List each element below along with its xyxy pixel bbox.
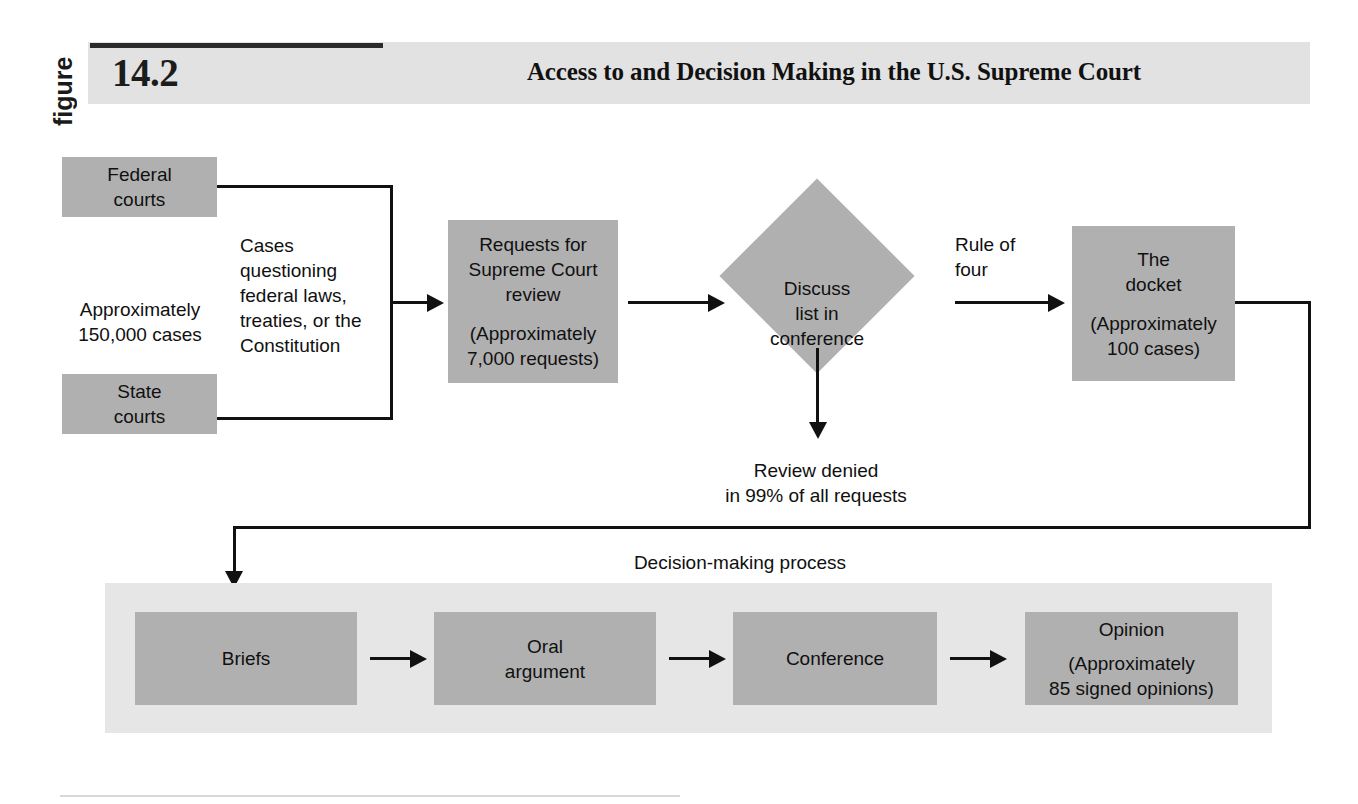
node-state-courts: State courts <box>62 374 217 434</box>
requests-line-4: (Approximately <box>467 321 599 346</box>
requests-line-1: Requests for <box>467 232 599 257</box>
requests-line-3: review <box>467 282 599 307</box>
review-denied-line-1: Review denied <box>686 458 946 483</box>
briefs-line-1: Briefs <box>222 646 271 671</box>
routing-right-down <box>1308 301 1311 529</box>
cases-questioning-line-1: Cases <box>240 233 390 258</box>
node-opinion: Opinion (Approximately 85 signed opinion… <box>1025 612 1238 705</box>
node-review-denied: Review denied in 99% of all requests <box>686 458 946 508</box>
discuss-line-2: list in <box>737 301 897 326</box>
federal-courts-line-2: courts <box>107 187 171 212</box>
oral-argument-line-2: argument <box>505 659 585 684</box>
opinion-spacer <box>1049 642 1214 651</box>
arrowhead-discuss-to-denied-icon <box>809 422 827 439</box>
discuss-line-1: Discuss <box>737 276 897 301</box>
arrow-line-discuss-to-denied <box>816 348 819 424</box>
docket-line-3: (Approximately <box>1090 311 1217 336</box>
node-discuss-list-label: Discuss list in conference <box>737 276 897 351</box>
docket-line-4: 100 cases) <box>1090 336 1217 361</box>
routing-down-to-panel <box>233 526 236 576</box>
docket-line-1: The <box>1090 247 1217 272</box>
edge-label-rule-of-four: Rule of four <box>955 232 1075 282</box>
opinion-line-1: Opinion <box>1049 617 1214 642</box>
conference-line-1: Conference <box>786 646 884 671</box>
routing-bottom-left <box>233 526 1311 529</box>
arrow-line-oral-to-conference <box>669 657 711 660</box>
arrow-line-briefs-to-oral <box>370 657 412 660</box>
arrowhead-oral-to-conference-icon <box>709 650 726 668</box>
arrowhead-briefs-to-oral-icon <box>410 650 427 668</box>
arrow-line-requests-to-discuss <box>628 301 710 304</box>
docket-spacer <box>1090 297 1217 311</box>
footer-rule <box>60 795 680 797</box>
node-conference: Conference <box>733 612 937 705</box>
routing-docket-right <box>1235 301 1311 304</box>
docket-line-2: docket <box>1090 272 1217 297</box>
connector-federal-top <box>217 185 393 188</box>
state-courts-line-2: courts <box>114 404 166 429</box>
edge-label-decision-making-process: Decision-making process <box>570 550 910 575</box>
state-courts-line-1: State <box>114 379 166 404</box>
approx-cases-line-2: 150,000 cases <box>36 322 244 347</box>
cases-questioning-line-4: treaties, or the <box>240 308 390 333</box>
cases-questioning-line-2: questioning <box>240 258 390 283</box>
figure-page: figure 14.2 Access to and Decision Makin… <box>0 0 1358 804</box>
rule-of-four-line-1: Rule of <box>955 232 1075 257</box>
opinion-line-3: 85 signed opinions) <box>1049 676 1214 701</box>
figure-number: 14.2 <box>112 50 178 95</box>
edge-label-cases-questioning: Cases questioning federal laws, treaties… <box>240 233 390 358</box>
arrow-line-conference-to-opinion <box>950 657 992 660</box>
oral-argument-line-1: Oral <box>505 634 585 659</box>
arrow-line-discuss-to-docket <box>955 301 1050 304</box>
cases-questioning-line-5: Constitution <box>240 333 390 358</box>
node-approximately-cases: Approximately 150,000 cases <box>36 297 244 347</box>
requests-spacer <box>467 307 599 321</box>
node-requests-for-review: Requests for Supreme Court review (Appro… <box>448 220 618 383</box>
header-rule <box>90 43 383 48</box>
arrowhead-requests-to-discuss-icon <box>708 294 725 312</box>
federal-courts-line-1: Federal <box>107 162 171 187</box>
approx-cases-line-1: Approximately <box>36 297 244 322</box>
node-federal-courts: Federal courts <box>62 157 217 217</box>
requests-line-5: 7,000 requests) <box>467 346 599 371</box>
node-briefs: Briefs <box>135 612 357 705</box>
decision-making-label: Decision-making process <box>634 552 846 573</box>
requests-line-2: Supreme Court <box>467 257 599 282</box>
figure-word-label: figure <box>46 46 80 126</box>
arrowhead-to-requests-icon <box>427 294 444 312</box>
arrow-line-to-requests <box>390 301 429 304</box>
page-title: Access to and Decision Making in the U.S… <box>394 58 1274 86</box>
arrowhead-conference-to-opinion-icon <box>990 650 1007 668</box>
node-oral-argument: Oral argument <box>434 612 656 705</box>
opinion-line-2: (Approximately <box>1049 651 1214 676</box>
connector-state-bottom <box>217 417 393 420</box>
cases-questioning-line-3: federal laws, <box>240 283 390 308</box>
node-the-docket: The docket (Approximately 100 cases) <box>1072 226 1235 381</box>
review-denied-line-2: in 99% of all requests <box>686 483 946 508</box>
arrowhead-discuss-to-docket-icon <box>1048 294 1065 312</box>
rule-of-four-line-2: four <box>955 257 1075 282</box>
